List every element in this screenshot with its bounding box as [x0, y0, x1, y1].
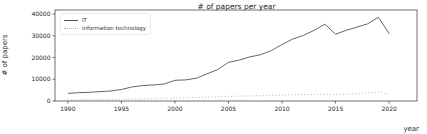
series-line-information-technology: [68, 92, 389, 100]
legend-item-information-technology: information technology: [64, 24, 146, 32]
x-tick-label: 2010: [274, 105, 289, 112]
legend: IT information technology: [60, 13, 151, 35]
y-tick-label: 10000: [31, 75, 50, 82]
y-tick-label: 30000: [31, 32, 50, 39]
x-tick-label: 2020: [382, 105, 397, 112]
y-tick-label: 20000: [31, 54, 50, 61]
x-tick-label: 1990: [60, 105, 75, 112]
y-axis-label: # of papers: [1, 13, 9, 97]
dotted-line-sample-icon: [64, 28, 78, 29]
solid-line-sample-icon: [64, 20, 78, 21]
x-tick-label: 2015: [328, 105, 343, 112]
legend-label-it: IT: [82, 16, 87, 24]
x-axis-label: year: [403, 125, 419, 133]
x-tick-label: 1995: [114, 105, 129, 112]
chart-title: # of papers per year: [55, 2, 418, 11]
legend-label-information-technology: information technology: [82, 24, 146, 32]
x-tick-label: 2005: [221, 105, 236, 112]
x-tick-label: 2000: [167, 105, 182, 112]
papers-per-year-chart: 1990199520002005201020152020010000200003…: [0, 0, 427, 134]
y-tick-label: 0: [47, 97, 51, 104]
y-tick-label: 40000: [31, 10, 50, 17]
legend-item-it: IT: [64, 16, 146, 24]
